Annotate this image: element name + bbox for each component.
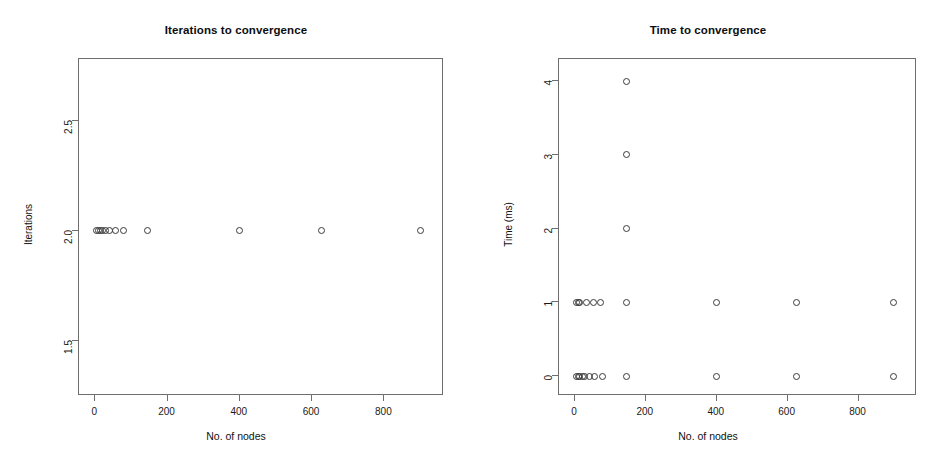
data-point [583, 299, 590, 306]
x-tick [239, 395, 240, 401]
panel-title-iterations: Iterations to convergence [0, 24, 472, 36]
data-point [713, 373, 720, 380]
panel-title-time: Time to convergence [472, 24, 944, 36]
data-point [318, 227, 325, 234]
x-tick [716, 395, 717, 401]
data-point [144, 227, 151, 234]
data-point [623, 373, 630, 380]
x-tick [787, 395, 788, 401]
x-axis-title-iterations: No. of nodes [0, 430, 472, 442]
y-axis-title-time: Time (ms) [503, 185, 514, 265]
x-tick [858, 395, 859, 401]
panel-time: Time to convergence 020040060080001234 N… [472, 0, 944, 460]
data-point [793, 373, 800, 380]
data-point [793, 299, 800, 306]
data-point [591, 373, 598, 380]
figure-canvas: Iterations to convergence 02004006008001… [0, 0, 944, 460]
x-tick [574, 395, 575, 401]
plot-area-time [559, 59, 915, 394]
data-point [623, 151, 630, 158]
y-axis-title-iterations: Iterations [23, 185, 34, 265]
panel-iterations: Iterations to convergence 02004006008001… [0, 0, 472, 460]
x-tick-label: 0 [571, 406, 577, 417]
y-tick-label: 3 [543, 154, 554, 190]
x-tick [383, 395, 384, 401]
data-point [623, 78, 630, 85]
x-tick-label: 800 [375, 406, 392, 417]
x-tick-label: 200 [636, 406, 653, 417]
data-point [890, 373, 897, 380]
y-tick-label: 1.5 [63, 340, 74, 376]
y-tick-label: 0 [543, 375, 554, 411]
data-point [112, 227, 119, 234]
data-point [597, 299, 604, 306]
y-tick-label: 2 [543, 228, 554, 264]
x-tick-label: 0 [91, 406, 97, 417]
plot-area-iterations [79, 59, 442, 394]
x-tick [94, 395, 95, 401]
data-point [623, 225, 630, 232]
x-tick-label: 800 [849, 406, 866, 417]
data-point [120, 227, 127, 234]
y-tick-label: 1 [543, 301, 554, 337]
data-point [713, 299, 720, 306]
y-tick-label: 2.5 [63, 120, 74, 156]
x-tick [167, 395, 168, 401]
data-point [417, 227, 424, 234]
x-axis-title-time: No. of nodes [472, 430, 944, 442]
data-point [236, 227, 243, 234]
x-tick-label: 600 [303, 406, 320, 417]
plot-box-iterations [78, 58, 443, 395]
x-tick-label: 400 [707, 406, 724, 417]
plot-box-time [558, 58, 916, 395]
data-point [599, 373, 606, 380]
x-tick-label: 200 [158, 406, 175, 417]
x-tick-label: 400 [230, 406, 247, 417]
x-tick-label: 600 [778, 406, 795, 417]
data-point [890, 299, 897, 306]
x-tick [311, 395, 312, 401]
x-tick [645, 395, 646, 401]
y-tick-label: 4 [543, 80, 554, 116]
y-tick-label: 2.0 [63, 230, 74, 266]
data-point [623, 299, 630, 306]
data-point [590, 299, 597, 306]
